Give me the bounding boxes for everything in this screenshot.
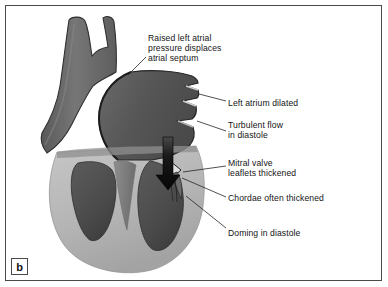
annotation-mitral-valve-leaflets-thickened: Mitral valve leaflets thickened [228,158,296,178]
annotation-raised-left-atrial-pressure: Raised left atrial pressure displaces at… [148,33,221,64]
figure-panel: Raised left atrial pressure displaces at… [0,0,388,287]
annotation-left-atrium-dilated: Left atrium dilated [228,98,298,108]
annotation-chordae-often-thickened: Chordae often thickened [228,193,324,203]
panel-label-b: b [11,258,28,275]
annotation-turbulent-flow-in-diastole: Turbulent flow in diastole [228,120,283,140]
leader-line-turbulent-flow [197,121,226,131]
leader-line-left-atrium [199,94,226,101]
annotation-doming-in-diastole: Doming in diastole [228,228,301,238]
